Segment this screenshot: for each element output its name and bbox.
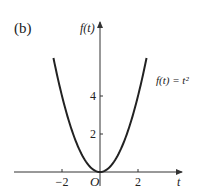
y-tick-label: 2 [90, 127, 96, 141]
x-axis-label: t [177, 175, 181, 189]
origin-label: O [90, 174, 100, 189]
y-axis-label: f(t) [80, 21, 95, 35]
x-tick-label: −2 [56, 175, 69, 189]
panel-label: (b) [14, 20, 32, 37]
parabola-chart: (b) f(t) t O −2224 f(t) = t² [0, 0, 199, 193]
y-tick-label: 4 [90, 89, 96, 103]
function-annotation: f(t) = t² [156, 74, 189, 87]
x-tick-label: 2 [135, 175, 141, 189]
